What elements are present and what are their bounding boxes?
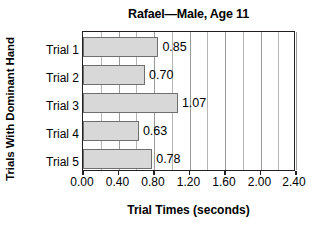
y-axis-title-text: Trials With Dominant Hand bbox=[4, 37, 16, 181]
x-axis-label-0.80: 0.80 bbox=[141, 175, 164, 189]
x-axis-label-0.40: 0.40 bbox=[106, 175, 129, 189]
gridline-2.20 bbox=[278, 32, 279, 170]
bar-trial-5[interactable] bbox=[83, 149, 152, 169]
x-axis-label-2.00: 2.00 bbox=[248, 175, 271, 189]
gridline-2.00 bbox=[261, 32, 262, 170]
bar-trial-2[interactable] bbox=[83, 65, 145, 85]
x-axis-label-1.60: 1.60 bbox=[212, 175, 235, 189]
bar-value-label-trial-2: 0.70 bbox=[145, 68, 173, 82]
gridline-1.40 bbox=[207, 32, 208, 170]
y-axis-title: Trials With Dominant Hand bbox=[1, 28, 19, 190]
x-axis-label-0.00: 0.00 bbox=[70, 175, 93, 189]
bar-value-label-trial-5: 0.78 bbox=[152, 152, 180, 166]
chart-title: Rafael—Male, Age 11 bbox=[82, 7, 295, 21]
plot-inner: 0.85 0.70 1.07 0.63 0.78 bbox=[83, 32, 294, 170]
category-label-trial-2: Trial 2 bbox=[32, 71, 82, 85]
bar-value-label-trial-1: 0.85 bbox=[158, 40, 186, 54]
x-axis-label-2.40: 2.40 bbox=[282, 175, 305, 189]
category-label-trial-1: Trial 1 bbox=[32, 43, 82, 57]
y-axis-category-labels: Trial 1 Trial 2 Trial 3 Trial 4 Trial 5 bbox=[26, 31, 82, 171]
bar-trial-1[interactable] bbox=[83, 37, 158, 57]
x-axis-title: Trial Times (seconds) bbox=[82, 203, 295, 217]
gridline-2.40 bbox=[296, 32, 297, 170]
bar-value-label-trial-4: 0.63 bbox=[139, 124, 167, 138]
bar-trial-3[interactable] bbox=[83, 93, 178, 113]
bar-trial-4[interactable] bbox=[83, 121, 139, 141]
category-label-trial-5: Trial 5 bbox=[32, 155, 82, 169]
category-label-trial-3: Trial 3 bbox=[32, 99, 82, 113]
plot-area: 0.85 0.70 1.07 0.63 0.78 bbox=[82, 31, 295, 171]
gridline-1.60 bbox=[225, 32, 226, 170]
bar-chart: Rafael—Male, Age 11 Trials With Dominant… bbox=[0, 0, 312, 230]
x-axis-label-1.20: 1.20 bbox=[177, 175, 200, 189]
bar-value-label-trial-3: 1.07 bbox=[178, 96, 206, 110]
category-label-trial-4: Trial 4 bbox=[32, 127, 82, 141]
gridline-1.80 bbox=[243, 32, 244, 170]
